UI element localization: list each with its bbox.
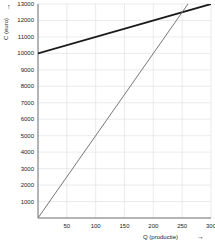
x-tick-label: 50	[52, 223, 82, 229]
break-even-chart: 1000200030004000500060007000800090001000…	[0, 0, 215, 245]
y-tick-label: 4000	[0, 149, 34, 155]
y-tick-label: 9000	[0, 67, 34, 73]
y-tick-label: 2000	[0, 182, 34, 188]
y-axis-title: C (euro)	[3, 9, 9, 49]
x-tick-label: 200	[138, 223, 168, 229]
y-tick-label: 8000	[0, 83, 34, 89]
y-tick-label: 10000	[0, 50, 34, 56]
y-tick-label: 5000	[0, 133, 34, 139]
y-tick-label: 7000	[0, 100, 34, 106]
y-tick-label: 1000	[0, 199, 34, 205]
x-tick-label: 100	[81, 223, 111, 229]
x-tick-label: 300	[196, 223, 215, 229]
x-axis-arrow-icon: →	[197, 233, 204, 240]
y-tick-label: 3000	[0, 166, 34, 172]
x-tick-label: 250	[167, 223, 197, 229]
x-tick-label: 150	[110, 223, 140, 229]
x-axis-title: Q (productie)	[143, 234, 178, 240]
y-tick-label: 13000	[0, 1, 34, 7]
y-tick-label: 6000	[0, 116, 34, 122]
vertical-gridlines	[67, 4, 211, 218]
